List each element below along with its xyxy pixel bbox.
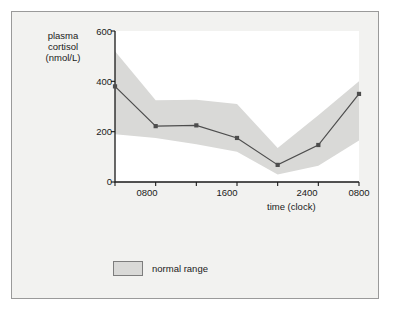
data-point bbox=[357, 92, 361, 96]
y-tick-label-400: 400 bbox=[86, 76, 112, 87]
data-point bbox=[316, 143, 320, 147]
y-axis-title-line-2: cortisol bbox=[48, 41, 78, 52]
x-axis-title: time (clock) bbox=[267, 201, 316, 212]
legend-label-normal-range: normal range bbox=[152, 263, 208, 274]
y-tick-label-600: 600 bbox=[86, 26, 112, 37]
cortisol-line-chart: plasmacortisol(nmol/L) time (clock) 600 … bbox=[12, 12, 380, 300]
y-axis-title-line-3: (nmol/L) bbox=[46, 52, 81, 63]
y-axis-title-line-1: plasma bbox=[48, 30, 79, 41]
data-point bbox=[154, 124, 158, 128]
data-point bbox=[276, 163, 280, 167]
x-tick-label-0800-end: 0800 bbox=[344, 187, 374, 198]
data-point bbox=[235, 136, 239, 140]
x-tick-label-1600: 1600 bbox=[212, 187, 242, 198]
y-tick-label-0: 0 bbox=[86, 176, 112, 187]
chart-legend: normal range bbox=[113, 261, 208, 276]
legend-swatch-normal-range bbox=[113, 261, 143, 276]
x-tick-label-2400: 2400 bbox=[292, 187, 322, 198]
y-axis-title: plasmacortisol(nmol/L) bbox=[32, 30, 94, 63]
data-point bbox=[113, 84, 117, 88]
figure-frame: plasmacortisol(nmol/L) time (clock) 600 … bbox=[11, 11, 379, 299]
x-tick-label-0800-start: 0800 bbox=[132, 187, 162, 198]
data-point bbox=[194, 123, 198, 127]
y-tick-label-200: 200 bbox=[86, 126, 112, 137]
